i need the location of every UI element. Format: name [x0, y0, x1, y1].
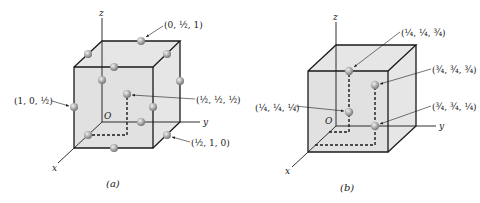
- label-p3: (¼, ¼, ¼): [255, 103, 300, 113]
- label-p4: (¾, ¾, ¼): [432, 102, 477, 112]
- label-body-center: (½, ½, ½): [196, 95, 241, 105]
- figure-a: (0, ½, 1) (1, 0, ½) (½, ½, ½) (½, 1, 0) …: [14, 8, 241, 189]
- label-p1: (¼, ¼, ¾): [401, 28, 446, 38]
- leader-arrow: [52, 101, 69, 106]
- caption-b: (b): [340, 182, 354, 193]
- atom-icon: [371, 81, 379, 89]
- atom-icon: [163, 131, 171, 139]
- atom-icon: [137, 118, 145, 126]
- crystal-diagram: (0, ½, 1) (1, 0, ½) (½, ½, ½) (½, 1, 0) …: [0, 0, 480, 203]
- axis-label-y: y: [438, 121, 445, 131]
- atom-icon: [110, 63, 118, 71]
- atom-icon: [345, 108, 353, 116]
- label-p2: (¾, ¾, ¾): [432, 65, 477, 75]
- axis-label-x: x: [52, 163, 57, 173]
- figure-b: (¼, ¼, ¾) (¾, ¾, ¾) (¼, ¼, ¼) (¾, ¾, ¼) …: [255, 12, 477, 193]
- origin-label: O: [104, 111, 112, 121]
- atom-icon: [110, 144, 118, 152]
- atom-icon: [163, 50, 171, 58]
- caption-a: (a): [106, 178, 120, 189]
- leader-arrow: [172, 137, 190, 142]
- axis-label-z: z: [98, 8, 104, 18]
- atom-icon: [176, 77, 184, 85]
- leader-arrow: [146, 26, 163, 37]
- atom-icon: [123, 90, 131, 98]
- label-bottom-edge: (½, 1, 0): [191, 138, 230, 148]
- atom-icon: [149, 103, 157, 111]
- axis-label-y: y: [202, 117, 209, 127]
- origin-label: O: [325, 116, 333, 126]
- atom-icon: [137, 37, 145, 45]
- atom-icon: [345, 67, 353, 75]
- axis-label-x: x: [285, 166, 290, 176]
- label-left-edge: (1, 0, ½): [14, 96, 53, 106]
- label-top-face: (0, ½, 1): [164, 20, 203, 30]
- atom-icon: [98, 76, 106, 84]
- atom-icon: [371, 122, 379, 130]
- atom-icon: [84, 50, 92, 58]
- atom-icon: [84, 131, 92, 139]
- atom-icon: [70, 103, 78, 111]
- axis-label-z: z: [332, 12, 338, 22]
